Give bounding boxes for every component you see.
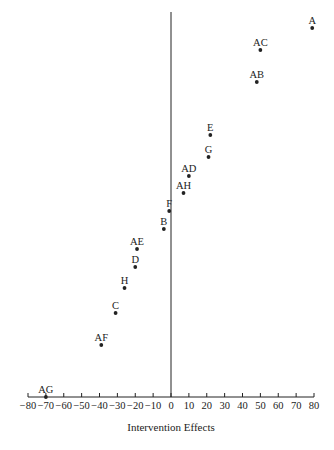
point-label: H xyxy=(121,275,129,286)
x-tick-label: 60 xyxy=(273,400,284,411)
point-marker xyxy=(207,155,211,159)
point-label: B xyxy=(160,216,167,227)
point-marker xyxy=(208,133,212,137)
point-marker xyxy=(167,209,171,213)
x-tick-label: −70 xyxy=(38,400,54,411)
point-marker xyxy=(182,191,186,195)
point-label: AH xyxy=(176,180,192,191)
point-marker xyxy=(135,247,139,251)
x-tick-label: 0 xyxy=(168,400,173,411)
point-marker xyxy=(114,311,118,315)
x-tick-label: 30 xyxy=(219,400,230,411)
x-tick-label: −80 xyxy=(20,400,36,411)
point-label: D xyxy=(131,254,139,265)
x-tick-label: 20 xyxy=(202,400,213,411)
data-point-af: AF xyxy=(95,332,109,347)
data-point-ab: AB xyxy=(250,69,265,84)
x-tick-label: 50 xyxy=(255,400,266,411)
point-marker xyxy=(310,26,314,30)
point-label: C xyxy=(112,300,119,311)
point-marker xyxy=(187,174,191,178)
data-point-ae: AE xyxy=(130,236,144,251)
x-tick-label: −60 xyxy=(56,400,72,411)
point-label: E xyxy=(207,122,213,133)
point-label: F xyxy=(166,198,172,209)
x-axis: −80−70−60−50−40−30−20−100102030405060708… xyxy=(20,393,319,411)
data-point-ac: AC xyxy=(253,37,268,52)
point-label: AE xyxy=(130,236,144,247)
data-point-h: H xyxy=(121,275,129,290)
data-point-b: B xyxy=(160,216,167,231)
data-point-e: E xyxy=(207,122,213,137)
point-label: AC xyxy=(253,37,268,48)
data-points: AACABEGADAHFBAEDHCAFAG xyxy=(38,15,316,399)
point-marker xyxy=(44,395,48,399)
scatter-chart: −80−70−60−50−40−30−20−100102030405060708… xyxy=(0,0,334,450)
point-label: AG xyxy=(38,384,54,395)
x-tick-label: 70 xyxy=(291,400,302,411)
data-point-c: C xyxy=(112,300,119,315)
x-tick-label: 80 xyxy=(309,400,320,411)
x-tick-label: −30 xyxy=(109,400,125,411)
point-marker xyxy=(162,227,166,231)
point-label: AF xyxy=(95,332,109,343)
data-point-a: A xyxy=(308,15,316,30)
data-point-d: D xyxy=(131,254,139,269)
data-point-g: G xyxy=(205,144,213,159)
point-label: A xyxy=(308,15,316,26)
x-tick-label: −50 xyxy=(73,400,89,411)
point-marker xyxy=(123,286,127,290)
x-tick-label: −10 xyxy=(145,400,161,411)
data-point-ad: AD xyxy=(181,163,197,178)
point-marker xyxy=(133,265,137,269)
point-marker xyxy=(255,80,259,84)
x-tick-label: 40 xyxy=(237,400,248,411)
x-tick-label: −20 xyxy=(127,400,143,411)
point-label: G xyxy=(205,144,213,155)
point-marker xyxy=(258,48,262,52)
point-marker xyxy=(99,343,103,347)
point-label: AD xyxy=(181,163,197,174)
point-label: AB xyxy=(250,69,265,80)
x-tick-label: −40 xyxy=(91,400,107,411)
x-axis-title: Intervention Effects xyxy=(127,421,214,433)
x-tick-label: 10 xyxy=(184,400,195,411)
data-point-ah: AH xyxy=(176,180,192,195)
